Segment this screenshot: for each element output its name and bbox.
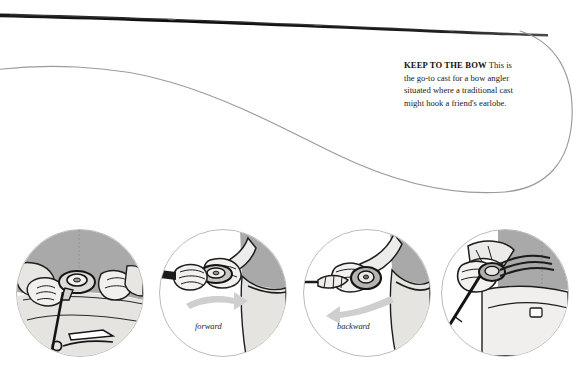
fly-line xyxy=(0,31,572,193)
caption-paragraph: KEEP TO THE BOW This is the go-to cast f… xyxy=(404,59,516,109)
reel-hub xyxy=(213,271,219,275)
caption-lead: This is xyxy=(487,60,512,70)
step-panel-2: forward xyxy=(159,229,287,357)
caption-heading: KEEP TO THE BOW xyxy=(404,60,487,70)
fly-rod-highlight xyxy=(10,15,500,33)
step-2-label: forward xyxy=(195,322,222,331)
rod-butt xyxy=(160,270,176,280)
step-panel-4 xyxy=(441,229,569,357)
page-canvas: KEEP TO THE BOW This is the go-to cast f… xyxy=(0,0,579,369)
step-panel-row: forward xyxy=(0,228,579,360)
step-3-illustration xyxy=(304,230,430,356)
caption-block: KEEP TO THE BOW This is the go-to cast f… xyxy=(404,59,516,109)
fly-rod xyxy=(0,14,548,37)
step-panel-3: backward xyxy=(303,229,431,357)
arrow-right-icon xyxy=(186,292,248,310)
caption-line-3: might hook a friend's earlobe. xyxy=(404,97,516,110)
reel-spool xyxy=(485,266,499,275)
step-2-illustration xyxy=(160,230,286,356)
step-panel-1 xyxy=(16,229,144,357)
rod-guide xyxy=(314,24,323,26)
caption-line-2: situated where a traditional cast xyxy=(404,84,516,97)
reel-hub xyxy=(74,278,81,282)
rod-guide xyxy=(168,19,177,21)
belt-loop xyxy=(530,308,542,317)
reel-hub xyxy=(363,275,368,279)
step-4-illustration xyxy=(442,230,568,356)
arrow-left-icon xyxy=(326,296,394,324)
rod-guide xyxy=(448,30,457,32)
hip xyxy=(482,286,568,356)
step-3-label: backward xyxy=(337,322,370,331)
step-1-illustration xyxy=(17,230,143,356)
caption-line-1: the go-to cast for a bow angler xyxy=(404,72,516,85)
rod-tip-line xyxy=(454,316,462,322)
